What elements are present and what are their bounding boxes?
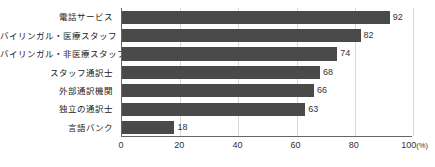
plot-area: 92827468666318	[121, 8, 412, 137]
bar-row: 82	[122, 26, 412, 44]
bar-row: 63	[122, 100, 412, 118]
x-axis-labels: 020406080100(%)	[121, 139, 412, 155]
bar-value-label: 74	[340, 46, 350, 60]
x-tick-label: 0	[118, 139, 123, 151]
bar-row: 66	[122, 82, 412, 100]
bar-row: 18	[122, 119, 412, 137]
gridline-100	[413, 8, 414, 136]
bar	[122, 11, 390, 24]
x-tick-label: 80	[349, 139, 359, 151]
x-tick-label: 20	[174, 139, 184, 151]
bar	[122, 121, 174, 134]
bar-chart: 電話サービスバイリンガル・医療スタッフバイリンガル・非医療スタッフスタッフ通訳士…	[0, 0, 435, 167]
bar-value-label: 18	[177, 120, 187, 134]
category-label: 独立の通訳士	[0, 103, 117, 115]
category-axis-labels: 電話サービスバイリンガル・医療スタッフバイリンガル・非医療スタッフスタッフ通訳士…	[0, 8, 117, 137]
x-tick-label: 60	[291, 139, 301, 151]
bar	[122, 103, 305, 116]
bar-row: 68	[122, 63, 412, 81]
bar-value-label: 66	[317, 83, 327, 97]
x-tick-label: 100(%)	[401, 139, 428, 152]
category-label: 言語バンク	[0, 122, 117, 134]
bar	[122, 84, 314, 97]
bar	[122, 47, 337, 60]
bar-value-label: 63	[308, 102, 318, 116]
x-tick-label: 40	[232, 139, 242, 151]
bar-value-label: 82	[364, 28, 374, 42]
category-label: 外部通訳機関	[0, 85, 117, 97]
category-label: バイリンガル・非医療スタッフ	[0, 48, 117, 60]
category-label: 電話サービス	[0, 11, 117, 23]
bar-row: 92	[122, 8, 412, 26]
bar-value-label: 92	[393, 10, 403, 24]
x-axis-unit: (%)	[416, 141, 428, 150]
bar	[122, 29, 361, 42]
bar-value-label: 68	[323, 65, 333, 79]
bar	[122, 66, 320, 79]
category-label: バイリンガル・医療スタッフ	[0, 30, 117, 42]
category-label: スタッフ通訳士	[0, 67, 117, 79]
bar-row: 74	[122, 45, 412, 63]
